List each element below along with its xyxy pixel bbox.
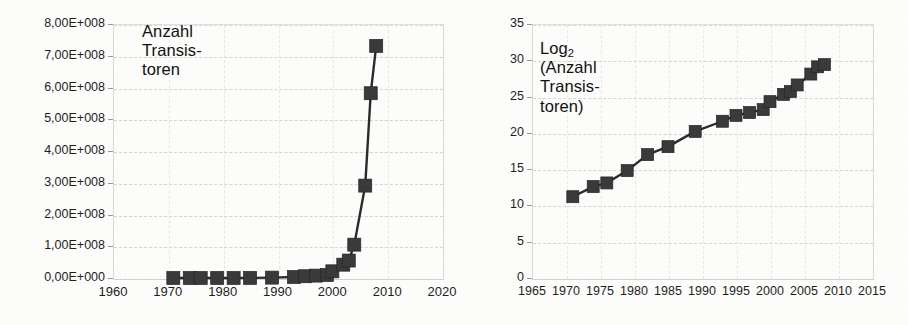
y-tickmark xyxy=(527,133,532,134)
data-point-marker xyxy=(587,181,599,193)
x-axis-tick-label: 2010 xyxy=(821,285,855,298)
data-point-marker xyxy=(364,87,377,100)
data-point-marker xyxy=(211,271,224,284)
data-point-marker xyxy=(227,271,240,284)
data-point-marker xyxy=(601,177,613,189)
y-tickmark xyxy=(527,278,532,279)
y-axis-tick-label: 25 xyxy=(502,90,524,103)
chart-transistors-linear: Anzahl Transis- toren 0,00E+0001,00E+008… xyxy=(0,0,454,325)
x-axis-tick-label: 2000 xyxy=(309,285,355,298)
data-point-marker xyxy=(730,109,742,121)
x-axis-tick-label: 1990 xyxy=(685,285,719,298)
y-axis-tick-label: 20 xyxy=(502,126,524,139)
y-tickmark xyxy=(527,24,532,25)
data-point-marker xyxy=(689,125,701,137)
data-point-marker xyxy=(244,271,257,284)
scanned-figure-page: Anzahl Transis- toren 0,00E+0001,00E+008… xyxy=(0,0,908,325)
y-axis-tick-label: 5 xyxy=(502,235,524,248)
series-line xyxy=(173,46,376,278)
y-axis-tick-label: 7,00E+008 xyxy=(27,49,105,62)
data-point-marker xyxy=(716,115,728,127)
data-point-marker xyxy=(621,165,633,177)
x-axis-tick-label: 1980 xyxy=(617,285,651,298)
y-tickmark xyxy=(108,24,113,25)
y-tickmark xyxy=(527,60,532,61)
y-tickmark xyxy=(527,169,532,170)
y-axis-tick-label: 30 xyxy=(502,53,524,66)
y-axis-tick-label: 6,00E+008 xyxy=(27,81,105,94)
y-tickmark xyxy=(527,205,532,206)
x-axis-tick-label: 1980 xyxy=(200,285,246,298)
y-tickmark xyxy=(108,278,113,279)
x-axis-tick-label: 1975 xyxy=(583,285,617,298)
data-point-marker xyxy=(342,254,355,267)
data-point-marker xyxy=(370,39,383,52)
x-axis-tick-label: 1965 xyxy=(515,285,549,298)
x-axis-tick-label: 1970 xyxy=(145,285,191,298)
y-tickmark xyxy=(108,246,113,247)
y-axis-tick-label: 0,00E+000 xyxy=(27,271,105,284)
y-axis-tick-label: 0 xyxy=(502,271,524,284)
y-tickmark xyxy=(108,119,113,120)
y-axis-tick-label: 8,00E+008 xyxy=(27,17,105,30)
y-axis-tick-label: 2,00E+008 xyxy=(27,208,105,221)
data-point-marker xyxy=(662,141,674,153)
y-tickmark xyxy=(108,215,113,216)
y-axis-tick-label: 35 xyxy=(502,17,524,30)
y-tickmark xyxy=(108,88,113,89)
y-axis-tick-label: 5,00E+008 xyxy=(27,112,105,125)
data-point-marker xyxy=(744,107,756,119)
y-axis-tick-label: 10 xyxy=(502,198,524,211)
x-axis-tick-label: 1990 xyxy=(255,285,301,298)
data-point-marker xyxy=(642,149,654,161)
data-point-marker xyxy=(194,272,207,285)
data-point-marker xyxy=(266,271,279,284)
y-axis-tick-label: 1,00E+008 xyxy=(27,239,105,252)
data-point-marker xyxy=(167,272,180,285)
data-point-marker xyxy=(348,238,361,251)
y-tickmark xyxy=(527,242,532,243)
x-axis-tick-label: 1970 xyxy=(549,285,583,298)
chart-transistors-log2: Log2(Anzahl Transis- toren) 051015202530… xyxy=(454,0,908,325)
x-axis-tick-label: 2015 xyxy=(855,285,889,298)
y-axis-tick-label: 4,00E+008 xyxy=(27,144,105,157)
data-point-marker xyxy=(791,79,803,91)
y-tickmark xyxy=(108,56,113,57)
x-axis-tick-label: 2010 xyxy=(364,285,410,298)
x-axis-tick-label: 2000 xyxy=(753,285,787,298)
x-axis-tick-label: 1985 xyxy=(651,285,685,298)
y-tickmark xyxy=(108,151,113,152)
y-axis-tick-label: 3,00E+008 xyxy=(27,176,105,189)
data-point-marker xyxy=(567,191,579,203)
data-point-marker xyxy=(818,59,830,71)
y-tickmark xyxy=(108,183,113,184)
y-tickmark xyxy=(527,97,532,98)
data-point-marker xyxy=(764,96,776,108)
x-axis-tick-label: 1960 xyxy=(90,285,136,298)
data-point-marker xyxy=(359,179,372,192)
y-axis-tick-label: 15 xyxy=(502,162,524,175)
x-axis-tick-label: 2005 xyxy=(787,285,821,298)
x-axis-tick-label: 1995 xyxy=(719,285,753,298)
